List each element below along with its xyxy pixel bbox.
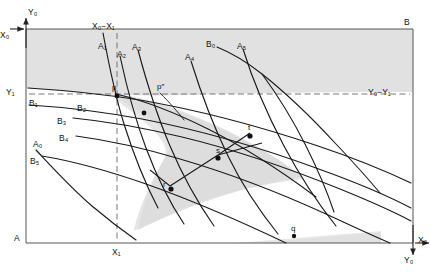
curve-label-A5: A₅ <box>237 42 246 51</box>
point-dot-p <box>115 94 120 99</box>
point-label-t: t <box>248 124 250 132</box>
point-label-p2: p″ <box>157 83 164 91</box>
curve-label-B2: B₂ <box>77 104 86 113</box>
axis-label-Y0-bottomright: Y₀ <box>404 256 413 265</box>
curve-label-B4: B₄ <box>59 134 68 143</box>
point-label-s: s <box>216 147 220 155</box>
curve-label-B5: B₅ <box>30 157 39 166</box>
point-dot-q <box>292 234 296 238</box>
point-dot-pp <box>142 111 147 116</box>
corner-label-A: A <box>14 234 20 243</box>
point-label-p: p <box>112 84 116 92</box>
lower-right-shaded-sliver <box>236 231 381 243</box>
curve-label-A4: A₄ <box>185 53 194 62</box>
point-dot-s <box>215 155 220 160</box>
point-label-q: q <box>291 225 295 233</box>
upper-shaded-band <box>26 29 413 95</box>
curve-A0 <box>36 150 136 240</box>
curve-label-B3: B₃ <box>57 117 66 126</box>
curve-label-B1: B₁ <box>29 99 38 108</box>
curve-label-A2: A₂ <box>117 50 126 59</box>
curve-label-A1: A₁ <box>98 42 107 51</box>
point-dot-t <box>247 133 252 138</box>
axis-label-X0-topleft: X₀ <box>0 31 9 40</box>
curve-label-A3: A₃ <box>132 43 141 52</box>
axis-label-Y0-top: Y₀ <box>28 8 37 17</box>
point-label-r: r <box>163 181 166 189</box>
axis-label-Y1-left: Y₁ <box>6 88 15 97</box>
axis-label-X0-X1-top: X₀−X₁ <box>92 22 115 31</box>
axis-label-X0-bottomright: X₀ <box>418 236 427 245</box>
corner-label-B: B <box>404 18 410 27</box>
axis-label-Y0-Y1-right: Y₀−Y₁ <box>368 88 391 97</box>
point-dot-r <box>168 186 173 191</box>
edgeworth-box-figure: Y₀ X₀ X₀−X₁ Y₁ Y₀−Y₁ X₁ X₀ Y₀ A B A₀ A₁ … <box>0 0 431 272</box>
curve-label-B0: B₀ <box>206 40 215 49</box>
axis-label-X1-bottom: X₁ <box>112 248 121 257</box>
curve-label-A0: A₀ <box>33 140 42 149</box>
